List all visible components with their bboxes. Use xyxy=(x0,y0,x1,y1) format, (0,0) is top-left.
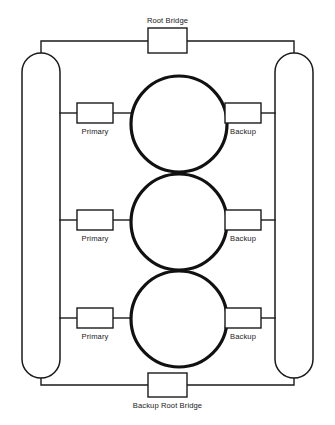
backup-bridge-box[interactable] xyxy=(225,308,261,328)
primary-bridge-node[interactable]: Primary xyxy=(77,103,113,136)
top-bus-left-segment xyxy=(41,41,148,53)
primary-bridge-label: Primary xyxy=(82,127,109,136)
bottom-bus-left-segment xyxy=(41,378,148,385)
backup-root-bridge-node[interactable]: Backup Root Bridge xyxy=(133,373,202,410)
primary-bridge-label: Primary xyxy=(82,234,109,243)
token-ring xyxy=(131,174,227,270)
backup-bridge-label: Backup xyxy=(230,127,256,136)
backup-bridge-node[interactable]: Backup xyxy=(225,308,261,341)
root-bridge-box[interactable] xyxy=(148,28,187,53)
token-ring xyxy=(131,271,227,367)
primary-bridge-column: PrimaryPrimaryPrimary xyxy=(77,103,113,341)
token-ring xyxy=(131,76,227,172)
primary-bridge-label: Primary xyxy=(82,332,109,341)
right-backbone-trunk xyxy=(275,53,313,378)
backup-bridge-label: Backup xyxy=(230,332,256,341)
top-bus-right-segment xyxy=(187,41,294,53)
topology-canvas: Root Bridge Backup Root Bridge PrimaryPr… xyxy=(0,0,335,425)
primary-bridge-node[interactable]: Primary xyxy=(77,308,113,341)
backup-root-bridge-box[interactable] xyxy=(148,373,187,397)
primary-bridge-box[interactable] xyxy=(77,210,113,230)
primary-bridge-box[interactable] xyxy=(77,308,113,328)
backup-bridge-node[interactable]: Backup xyxy=(225,210,261,243)
primary-bridge-box[interactable] xyxy=(77,103,113,123)
primary-bridge-node[interactable]: Primary xyxy=(77,210,113,243)
root-bridge-node[interactable]: Root Bridge xyxy=(147,16,188,53)
topology-diagram: Root Bridge Backup Root Bridge PrimaryPr… xyxy=(0,0,335,425)
backup-bridge-column: BackupBackupBackup xyxy=(225,103,261,341)
ring-group xyxy=(131,76,227,367)
bottom-bus-right-segment xyxy=(187,378,294,385)
backup-bridge-node[interactable]: Backup xyxy=(225,103,261,136)
left-backbone-trunk xyxy=(22,53,60,378)
backup-bridge-label: Backup xyxy=(230,234,256,243)
root-bridge-label: Root Bridge xyxy=(147,16,188,25)
backup-root-bridge-label: Backup Root Bridge xyxy=(133,401,202,410)
backup-bridge-box[interactable] xyxy=(225,210,261,230)
backup-bridge-box[interactable] xyxy=(225,103,261,123)
